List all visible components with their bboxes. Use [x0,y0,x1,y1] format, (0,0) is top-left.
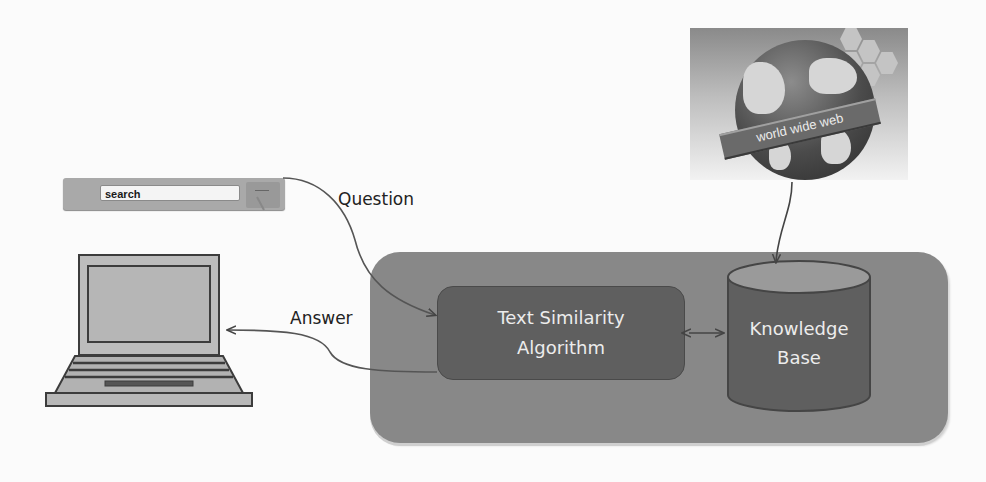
answer-arrow [228,330,437,372]
connector-arrows [0,0,986,482]
web-to-knowledge-arrow [776,182,792,262]
cursor-icon [257,197,264,210]
question-arrow [283,178,435,315]
